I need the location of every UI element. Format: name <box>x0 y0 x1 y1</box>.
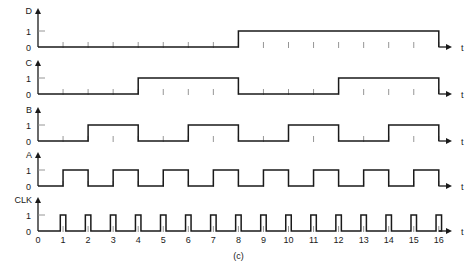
level-label-zero-d: 0 <box>26 43 31 53</box>
time-tick-label-11: 11 <box>309 235 318 245</box>
waveform-d <box>38 31 439 47</box>
time-tick-label-6: 6 <box>186 235 191 245</box>
time-tick-label-3: 3 <box>111 235 116 245</box>
signal-label-d: D <box>26 6 33 16</box>
time-axis-label-d: t <box>461 43 464 53</box>
level-label-one-clk: 1 <box>26 211 31 221</box>
signal-label-a: A <box>26 150 32 160</box>
time-axis-label-clk: t <box>461 227 464 237</box>
time-tick-label-7: 7 <box>211 235 216 245</box>
time-axis-label-b: t <box>461 137 464 147</box>
time-axis-arrow-a <box>446 183 452 189</box>
timing-diagram-svg: D10tC10tB10tA10tCLK10t012345678910111213… <box>0 0 476 263</box>
vertical-axis-arrow-c <box>35 60 41 66</box>
time-tick-label-1: 1 <box>61 235 66 245</box>
time-tick-label-10: 10 <box>283 235 293 245</box>
time-tick-label-4: 4 <box>136 235 141 245</box>
signal-label-c: C <box>26 58 33 68</box>
time-tick-label-5: 5 <box>161 235 166 245</box>
time-axis-arrow-b <box>446 138 452 144</box>
level-label-zero-a: 0 <box>26 182 31 192</box>
level-label-one-b: 1 <box>26 121 31 131</box>
timing-diagram-figure: D10tC10tB10tA10tCLK10t012345678910111213… <box>0 0 476 263</box>
time-axis-label-c: t <box>461 90 464 100</box>
signal-label-clk: CLK <box>14 195 32 205</box>
signal-label-b: B <box>26 105 32 115</box>
waveform-a <box>38 170 439 186</box>
waveform-b <box>38 125 439 141</box>
time-tick-label-15: 15 <box>409 235 419 245</box>
time-tick-label-8: 8 <box>236 235 241 245</box>
time-tick-label-2: 2 <box>86 235 91 245</box>
waveform-c <box>38 78 439 94</box>
time-axis-arrow-c <box>446 91 452 97</box>
vertical-axis-arrow-b <box>35 107 41 113</box>
level-label-zero-b: 0 <box>26 137 31 147</box>
time-tick-label-16: 16 <box>434 235 444 245</box>
level-label-one-a: 1 <box>26 166 31 176</box>
time-tick-label-14: 14 <box>384 235 394 245</box>
figure-caption: (c) <box>233 251 244 261</box>
vertical-axis-arrow-a <box>35 152 41 158</box>
vertical-axis-arrow-d <box>35 8 41 14</box>
time-axis-arrow-d <box>446 44 452 50</box>
level-label-one-c: 1 <box>26 74 31 84</box>
waveform-clk <box>38 215 442 231</box>
time-axis-arrow-clk <box>446 228 452 234</box>
level-label-one-d: 1 <box>26 27 31 37</box>
time-tick-label-12: 12 <box>334 235 344 245</box>
time-axis-label-a: t <box>461 182 464 192</box>
level-label-zero-clk: 0 <box>26 227 31 237</box>
vertical-axis-arrow-clk <box>35 197 41 203</box>
time-tick-label-0: 0 <box>35 235 40 245</box>
time-tick-label-9: 9 <box>261 235 266 245</box>
level-label-zero-c: 0 <box>26 90 31 100</box>
time-tick-label-13: 13 <box>359 235 369 245</box>
